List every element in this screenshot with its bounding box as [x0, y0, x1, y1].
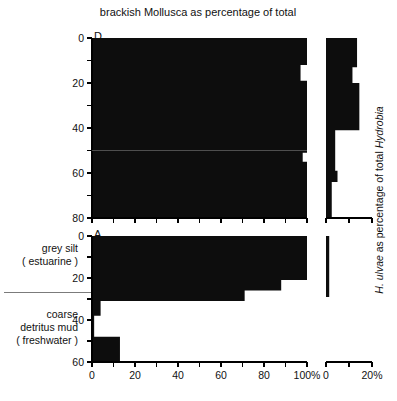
data-area	[326, 236, 329, 362]
y-tick-label: 80	[72, 212, 84, 224]
y-tick-label: 0	[78, 32, 84, 44]
chart-svg: brackish Mollusca as percentage of total…	[0, 0, 397, 401]
x-tick-label: 0	[89, 369, 95, 381]
x-tick-label: 60	[215, 369, 227, 381]
figure-root: brackish Mollusca as percentage of total…	[0, 0, 397, 401]
y-tick-label: 40	[72, 122, 84, 134]
right-axis-label-species: H. ulvae	[373, 255, 385, 294]
strat-label-grey-silt-line2: ( estuarine )	[22, 255, 78, 267]
y-tick-label: 40	[72, 314, 84, 326]
strat-label-detritus-line2: detritus mud	[20, 321, 78, 333]
y-tick-label: 0	[78, 230, 84, 242]
x-tick-label: 100%	[294, 369, 321, 381]
svg-text:H. ulvae as percentage of tota: H. ulvae as percentage of total Hydrobia	[373, 106, 385, 294]
data-area	[326, 38, 359, 218]
data-area	[92, 236, 307, 362]
y-tick-label: 20	[72, 272, 84, 284]
panel-D-mollusca	[92, 38, 307, 218]
y-tick-label: 60	[72, 356, 84, 368]
x-tick-label: 40	[172, 369, 184, 381]
panel-D-hydrobia	[326, 38, 359, 218]
right-axis-label-mid: as percentage of total	[373, 148, 385, 255]
chart-title: brackish Mollusca as percentage of total	[100, 6, 296, 18]
panel-A-mollusca	[92, 236, 307, 362]
x-tick-label: 0	[323, 369, 329, 381]
strat-label-grey-silt-line1: grey silt	[42, 242, 78, 254]
panel-A-hydrobia	[326, 236, 329, 362]
strat-label-detritus-line3: ( freshwater )	[16, 334, 78, 346]
data-area	[92, 38, 307, 218]
x-tick-label: 20%	[361, 369, 382, 381]
y-tick-label: 20	[72, 77, 84, 89]
y-tick-label: 60	[72, 167, 84, 179]
x-tick-label: 20	[129, 369, 141, 381]
right-axis-label-genus: Hydrobia	[373, 106, 385, 148]
x-tick-label: 80	[258, 369, 270, 381]
right-axis-label: H. ulvae as percentage of total Hydrobia	[373, 106, 385, 294]
